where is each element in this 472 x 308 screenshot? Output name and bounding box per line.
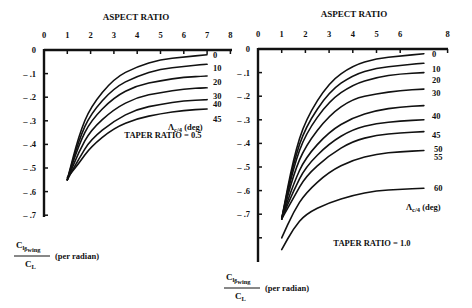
curve-label-45: 45	[213, 114, 222, 124]
curve-sweep-50	[282, 132, 424, 219]
x-axis-title: ASPECT RATIO	[103, 12, 169, 22]
y-tick-label: – .2	[22, 92, 36, 102]
y-tick-label: – .1	[22, 69, 36, 79]
curve-label-0: 0	[432, 49, 436, 59]
x-axis-title: ASPECT RATIO	[321, 9, 387, 19]
x-tick-label: 3	[327, 29, 331, 39]
x-tick-label: 3	[112, 30, 116, 40]
x-tick-label: 0	[42, 30, 46, 40]
y-label-unit: (per radian)	[55, 251, 99, 261]
sub-wing: wing	[27, 246, 41, 253]
y-tick-label: 0	[32, 45, 36, 55]
y-tick-label: – .7	[22, 210, 37, 220]
sweep-legend-title: Λc/4 (deg)	[406, 202, 441, 213]
curve-label-40: 40	[213, 99, 222, 109]
x-tick-label: 1	[65, 30, 69, 40]
chart-panel-2: ASPECT RATIO012345680– .1– .2– .3– .4– .…	[224, 9, 450, 302]
x-tick-label: 5	[158, 30, 162, 40]
curve-sweep-30	[282, 89, 424, 219]
curve-label-40: 40	[432, 111, 441, 121]
curve-label-10: 10	[213, 63, 222, 73]
x-tick-label: 5	[374, 29, 378, 39]
x-tick-label: 7	[205, 30, 210, 40]
sub-wing: wing	[237, 278, 251, 285]
curve-sweep-40	[282, 106, 424, 219]
x-tick-label: 0	[256, 29, 260, 39]
y-tick-label: – .5	[22, 163, 36, 173]
y-tick-label: – .6	[236, 186, 250, 196]
unit: (deg)	[420, 202, 441, 212]
y-tick-label: 0	[246, 44, 250, 54]
x-tick-label: 2	[303, 29, 307, 39]
y-tick-label: – .5	[236, 162, 250, 172]
x-tick-label: 4	[351, 29, 356, 39]
curve-label-10: 10	[432, 64, 441, 74]
curve-sweep-0	[67, 55, 207, 180]
x-tick-label: 4	[135, 30, 140, 40]
chart-panel-1: ASPECT RATIO0123456780– .1– .2– .3– .4– …	[14, 12, 233, 270]
y-tick-label: – .3	[22, 116, 36, 126]
y-label-numerator: Clβwing	[226, 272, 251, 285]
taper-ratio-label: TAPER RATIO = 1.0	[333, 238, 410, 248]
y-tick-label: – .2	[236, 91, 250, 101]
y-tick-label: – .3	[236, 115, 250, 125]
y-tick-label: – .4	[22, 139, 37, 149]
curve-label-55: 55	[434, 152, 443, 162]
x-tick-label: 6	[398, 29, 402, 39]
y-tick-label: – .4	[236, 138, 251, 148]
y-label-numerator: Clβwing	[16, 240, 41, 253]
sub-L: L	[32, 263, 37, 270]
x-tick-label: 8	[445, 29, 449, 39]
taper-ratio-label: TAPER RATIO = 0.5	[124, 130, 201, 140]
y-tick-label: – .6	[22, 187, 36, 197]
x-tick-label: 1	[280, 29, 284, 39]
curve-label-20: 20	[213, 77, 222, 87]
y-tick-label: – .7	[236, 209, 251, 219]
figure: ASPECT RATIO0123456780– .1– .2– .3– .4– …	[0, 0, 472, 308]
x-tick-label: 8	[228, 30, 232, 40]
curve-label-45: 45	[432, 130, 441, 140]
y-label-denominator: CL	[25, 259, 37, 270]
y-label-denominator: CL	[235, 291, 247, 302]
curve-label-30: 30	[432, 88, 441, 98]
x-tick-label: 6	[182, 30, 186, 40]
curve-label-0: 0	[213, 50, 217, 60]
curve-label-20: 20	[432, 75, 441, 85]
x-tick-label: 2	[88, 30, 92, 40]
y-label-unit: (per radian)	[265, 283, 309, 293]
sub-L: L	[242, 295, 247, 302]
curve-label-60: 60	[434, 183, 443, 193]
y-tick-label: – .1	[236, 68, 250, 78]
